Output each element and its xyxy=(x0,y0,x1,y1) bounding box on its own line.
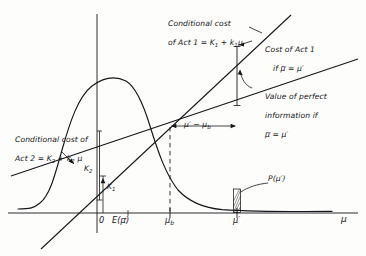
tilde-bar-vpi: ~ xyxy=(265,128,271,137)
act1-cost-label-line2: of Act 1 = K1 + k1μ xyxy=(168,38,243,47)
mu-tilde-glyph: ~μ xyxy=(281,64,286,73)
span-label-mu-prime-minus-mu-b: μ′ − μb xyxy=(184,120,211,132)
axis-origin-label: 0 xyxy=(99,216,104,225)
mu-tilde-glyph-axis: ~μ xyxy=(121,216,126,225)
k1-label: K1 xyxy=(107,182,116,194)
probability-label: P(μ′) xyxy=(268,174,286,183)
axis-tick-expected-mu: E(~μ) xyxy=(112,216,129,225)
mu-tilde-glyph-vpi: ~μ xyxy=(265,130,270,139)
k1-label-sub: 1 xyxy=(112,186,116,192)
act1-cost-label-line1: Conditional cost xyxy=(168,19,231,28)
value-perfect-information-label: Value of perfect information if ~μ = μ′ xyxy=(255,83,327,149)
span-label-sub: b xyxy=(207,124,211,130)
figure-canvas: Conditional cost of Act 1 = K1 + k1μ Con… xyxy=(0,0,366,256)
span-label-text: μ′ − μ xyxy=(184,120,207,129)
act1-cost-label: Conditional cost of Act 1 = K1 + k1μ xyxy=(158,10,243,60)
vpi-seg2: = μ′ xyxy=(270,130,288,139)
vpi-label-line1: Value of perfect xyxy=(265,92,327,101)
span-arrow-right-head xyxy=(231,124,236,128)
k2-label: K2 xyxy=(84,164,93,176)
vpi-arrowhead xyxy=(238,70,243,75)
expected-mu-prefix: E( xyxy=(112,215,121,225)
k1-arrowhead xyxy=(101,178,106,183)
cost-act1-seg2: = μ′ xyxy=(286,64,304,73)
prob-label-leader xyxy=(241,183,268,192)
cost-act1-label-line1: Cost of Act 1 xyxy=(265,45,315,54)
act2-cost-label: Conditional cost of Act 2 = K2 + k2 μ xyxy=(5,126,88,176)
prob-label-prefix: P( xyxy=(268,174,276,183)
vpi-leader xyxy=(240,70,252,88)
cost-act1-seg1: if xyxy=(273,64,281,73)
tilde-bar-axis: ~ xyxy=(121,214,128,223)
act2-label-seg3: μ xyxy=(75,154,82,163)
act2-cost-label-line1: Conditional cost of xyxy=(15,135,88,144)
k2-label-sub: 2 xyxy=(89,168,93,174)
act2-cost-label-line2: Act 2 = K2 + k2 μ xyxy=(15,154,82,163)
axis-tick-mu-b: μb xyxy=(165,216,174,228)
prob-label-suffix: ) xyxy=(283,174,286,183)
vpi-label-line3: ~μ = μ′ xyxy=(265,130,288,139)
axis-tick-mu-prime: μ′ xyxy=(233,216,240,225)
mu-b-sub: b xyxy=(170,220,174,226)
act1-label-seg2: + k xyxy=(218,38,234,47)
cost-act1-label-line2: if ~μ = μ′ xyxy=(273,64,304,73)
act2-label-seg1: Act 2 = K xyxy=(15,154,52,163)
vpi-label-line2: information if xyxy=(265,111,318,120)
act1-label-seg3: μ xyxy=(238,38,243,47)
x-axis-name: μ xyxy=(341,215,347,224)
cost-act1-at-muprime-label: Cost of Act 1 if ~μ = μ′ xyxy=(255,36,315,83)
tilde-bar: ~ xyxy=(281,62,287,71)
act1-label-seg1: of Act 1 = K xyxy=(168,38,215,47)
act2-label-seg2: + k xyxy=(55,154,71,163)
prob-label-value: μ′ xyxy=(276,174,283,183)
act1-label-leader xyxy=(249,27,262,33)
